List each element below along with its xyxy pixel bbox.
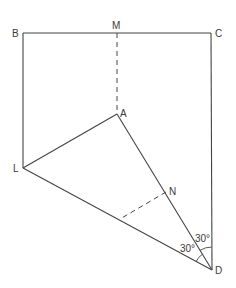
angle-arc-lda — [196, 254, 202, 261]
label-d: D — [215, 265, 222, 276]
segment-ld — [23, 168, 212, 270]
dashed-segment-n-perpendicular — [120, 192, 166, 219]
angle-label-adc: 30° — [195, 233, 210, 244]
geometry-diagram: B M C A L N D 30° 30° — [0, 0, 236, 288]
segment-ad — [117, 114, 212, 270]
label-m: M — [112, 20, 120, 31]
label-l: L — [13, 163, 19, 174]
label-c: C — [215, 28, 222, 39]
label-n: N — [169, 186, 176, 197]
segment-cd — [211, 33, 212, 270]
angle-label-lda: 30° — [180, 243, 195, 254]
label-a: A — [120, 108, 127, 119]
label-b: B — [12, 28, 19, 39]
segment-la — [23, 114, 117, 168]
angle-arc-adc — [200, 247, 212, 250]
